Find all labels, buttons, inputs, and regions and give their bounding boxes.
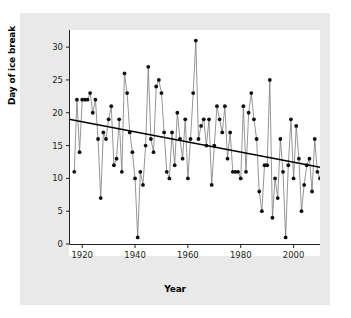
y-tick-label: 15 [52,141,63,151]
y-tick-label: 10 [52,173,63,183]
x-axis-title: Year [20,284,330,294]
x-tick-label: 1960 [177,250,199,260]
figure-card: 05101520253019201940196019802000 Day of … [20,13,330,305]
y-tick-label: 30 [52,42,63,52]
axes-svg: 05101520253019201940196019802000 [20,13,330,305]
x-tick-label: 1980 [230,250,252,260]
x-tick-label: 1920 [71,250,93,260]
y-tick-label: 0 [58,239,63,249]
x-tick-label: 2000 [283,250,305,260]
y-tick-label: 25 [52,75,63,85]
y-tick-label: 5 [58,206,63,216]
y-axis-title: Day of ice break [7,0,17,105]
x-tick-label: 1940 [124,250,146,260]
y-tick-label: 20 [52,108,63,118]
